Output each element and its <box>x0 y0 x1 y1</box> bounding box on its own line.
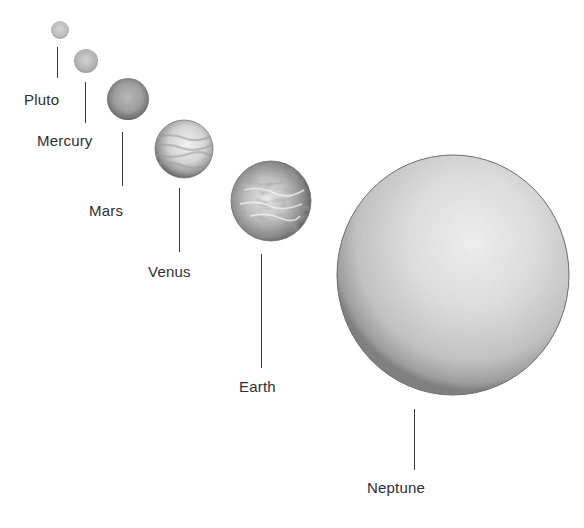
label-pluto: Pluto <box>24 92 59 108</box>
planet-mercury <box>74 49 98 73</box>
leader-line-earth <box>261 254 262 368</box>
label-earth: Earth <box>239 379 276 395</box>
planet-size-diagram: Pluto Mercury <box>0 0 584 528</box>
label-venus: Venus <box>148 264 191 280</box>
planet-venus <box>154 119 214 179</box>
label-mars: Mars <box>89 203 123 219</box>
leader-line-neptune <box>414 409 415 470</box>
planet-mars <box>106 77 150 121</box>
planet-neptune <box>335 153 571 397</box>
leader-line-venus <box>179 188 180 252</box>
leader-line-pluto <box>57 47 58 78</box>
leader-line-mars <box>122 132 123 186</box>
label-mercury: Mercury <box>37 133 93 149</box>
leader-line-mercury <box>85 82 86 123</box>
planet-earth <box>230 160 312 242</box>
planet-pluto <box>51 21 69 39</box>
label-neptune: Neptune <box>367 480 425 496</box>
